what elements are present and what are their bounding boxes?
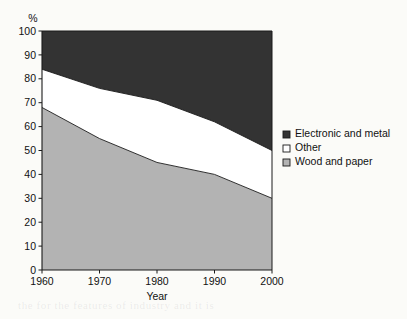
x-axis-label: Year	[146, 290, 168, 302]
chart-legend: Electronic and metalOtherWood and paper	[283, 127, 390, 167]
legend-label: Wood and paper	[295, 155, 373, 167]
chart-figure: 1009080706050403020100 19601970198019902…	[0, 0, 407, 319]
y-tick-label: 0	[30, 264, 36, 276]
legend-swatch-gray-square	[283, 159, 290, 166]
y-tick-label: 70	[24, 96, 36, 108]
y-tick-label: 80	[24, 72, 36, 84]
y-axis-label: %	[28, 12, 37, 24]
y-tick-label: 40	[24, 168, 36, 180]
x-axis-ticks: 19601970198019902000	[30, 270, 284, 287]
y-tick-label: 10	[24, 240, 36, 252]
legend-swatch-filled-dark-square	[283, 131, 290, 138]
y-tick-label: 20	[24, 216, 36, 228]
legend-label: Other	[295, 141, 322, 153]
x-tick-label: 1990	[203, 275, 227, 287]
stacked-area-chart: 1009080706050403020100 19601970198019902…	[0, 0, 407, 319]
legend-label: Electronic and metal	[295, 127, 390, 139]
y-tick-label: 30	[24, 192, 36, 204]
y-tick-label: 60	[24, 120, 36, 132]
x-tick-label: 1980	[145, 275, 169, 287]
y-tick-label: 100	[18, 25, 36, 37]
plot-areas	[42, 31, 272, 270]
x-tick-label: 1970	[88, 275, 112, 287]
legend-swatch-empty-white-square	[283, 145, 290, 152]
x-tick-label: 1960	[30, 275, 54, 287]
y-axis-ticks: 1009080706050403020100	[18, 25, 42, 276]
y-tick-label: 90	[24, 49, 36, 61]
y-tick-label: 50	[24, 144, 36, 156]
x-tick-label: 2000	[260, 275, 284, 287]
